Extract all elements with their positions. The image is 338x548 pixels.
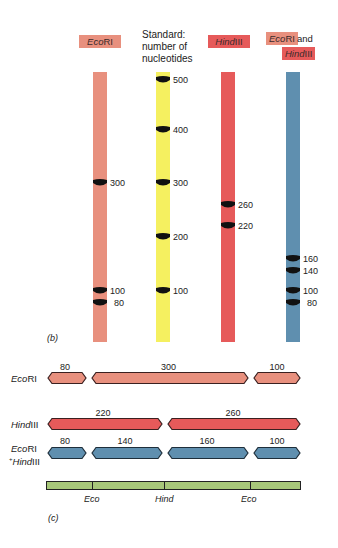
row-label-prefix: Eco xyxy=(11,373,27,384)
band-icon xyxy=(93,287,107,294)
hindiii-suffix: III xyxy=(235,36,243,47)
standard-header-line2: number of xyxy=(142,41,193,53)
combined-row-label: EcoRI +HindIII xyxy=(11,443,40,467)
combined-eco-prefix: Eco xyxy=(269,33,285,44)
hindiii-band-label: 220 xyxy=(238,221,253,231)
eco-site-marker xyxy=(250,481,251,490)
band-icon xyxy=(286,267,300,274)
row-label-prefix: Hind xyxy=(13,456,33,467)
standard-band-label: 100 xyxy=(173,286,188,296)
hindiii-prefix: Hind xyxy=(215,36,235,47)
band-icon xyxy=(156,126,170,133)
ecori-suffix: RI xyxy=(103,36,113,47)
ecori-row-label: EcoRI xyxy=(11,373,37,384)
row-label-prefix: Hind xyxy=(11,419,31,430)
combined-hind-prefix: Hind xyxy=(285,48,305,59)
band-icon xyxy=(156,287,170,294)
ecori-band-label: 100 xyxy=(110,286,125,296)
ecori-lane-header: EcoRI xyxy=(79,35,121,48)
band-icon xyxy=(286,299,300,306)
fragment-label: 100 xyxy=(254,436,300,446)
ecori-band-label: 300 xyxy=(110,178,125,188)
band-icon xyxy=(221,222,235,229)
row-label-suffix: III xyxy=(31,419,39,430)
combined-eco-suffix: RI xyxy=(285,33,295,44)
site-label-hind: Hind xyxy=(155,494,174,504)
band-icon xyxy=(93,299,107,306)
row-label-suffix: RI xyxy=(27,373,37,384)
standard-band-label: 500 xyxy=(173,75,188,85)
site-label-eco: Eco xyxy=(241,494,257,504)
row-label-suffix: III xyxy=(32,456,40,467)
combined-band-label: 140 xyxy=(303,266,318,276)
standard-band-label: 300 xyxy=(173,178,188,188)
hindiii-lane-header: HindIII xyxy=(208,35,250,48)
band-icon xyxy=(156,179,170,186)
band-icon xyxy=(286,287,300,294)
band-icon xyxy=(156,76,170,83)
standard-lane xyxy=(156,72,170,342)
ecori-prefix: Eco xyxy=(87,36,103,47)
ecori-band-label: 80 xyxy=(114,298,124,308)
band-icon xyxy=(221,201,235,208)
combined-band-label: 80 xyxy=(307,298,317,308)
combined-fragment-row xyxy=(44,446,304,460)
combined-header-and: and xyxy=(297,33,313,44)
hindiii-row-label: HindIII xyxy=(11,419,38,430)
standard-header-line3: nucleotides xyxy=(142,53,193,65)
hindiii-fragment-row xyxy=(44,417,304,431)
restriction-map-bar xyxy=(46,481,301,490)
combined-header-ecori: EcoRI xyxy=(266,32,298,45)
fragment-label: 80 xyxy=(46,436,84,446)
combined-band-label: 160 xyxy=(303,254,318,264)
panel-c-label: (c) xyxy=(48,513,59,523)
row-label-suffix: RI xyxy=(27,443,37,454)
hindiii-band-label: 260 xyxy=(238,200,253,210)
band-icon xyxy=(286,255,300,262)
hind-site-marker xyxy=(164,481,165,490)
eco-site-marker xyxy=(92,481,93,490)
site-label-eco: Eco xyxy=(84,494,100,504)
standard-band-label: 200 xyxy=(173,232,188,242)
standard-header-line1: Standard: xyxy=(142,29,193,41)
fragment-label: 160 xyxy=(166,436,248,446)
combined-hind-suffix: III xyxy=(305,48,313,59)
combined-band-label: 100 xyxy=(303,286,318,296)
combined-header-hindiii: HindIII xyxy=(282,47,315,60)
row-label-prefix: Eco xyxy=(11,443,27,454)
panel-b-label: (b) xyxy=(47,333,58,343)
ecori-fragment-row xyxy=(44,371,304,385)
fragment-label: 140 xyxy=(90,436,160,446)
band-icon xyxy=(93,179,107,186)
standard-band-label: 400 xyxy=(173,125,188,135)
band-icon xyxy=(156,233,170,240)
standard-lane-header: Standard: number of nucleotides xyxy=(142,29,193,65)
